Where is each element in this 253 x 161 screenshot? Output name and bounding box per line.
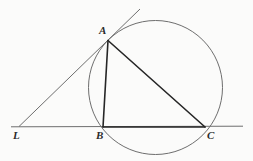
vertex-label-b: B xyxy=(96,130,103,141)
chord-AB xyxy=(103,41,108,128)
tangent-line-LA xyxy=(19,9,140,127)
vertex-label-a: A xyxy=(99,25,106,36)
figure-canvas xyxy=(0,0,253,161)
geometry-figure: A B C L xyxy=(0,0,253,161)
chord-AC xyxy=(108,41,205,128)
vertex-label-l: L xyxy=(13,130,20,141)
vertex-label-c: C xyxy=(207,130,214,141)
